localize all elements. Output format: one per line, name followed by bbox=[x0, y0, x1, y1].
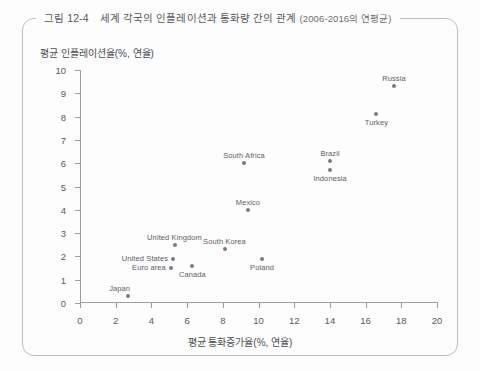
y-axis-tick: 8 bbox=[75, 117, 80, 118]
y-axis-tick: 5 bbox=[75, 187, 80, 188]
y-axis-tick-label: 0 bbox=[61, 298, 66, 309]
x-axis-tick-label: 16 bbox=[360, 315, 371, 326]
x-axis-tick-label: 12 bbox=[289, 315, 300, 326]
x-axis-tick-label: 10 bbox=[253, 315, 264, 326]
figure-caption-text: 세계 각국의 인플레이션과 통화량 간의 관계 bbox=[100, 12, 297, 24]
data-point-label: United States bbox=[122, 254, 168, 263]
x-axis-tick-label: 6 bbox=[184, 315, 189, 326]
scatter-plot-area: 01234567891002468101214161820JapanEuro a… bbox=[80, 70, 437, 303]
y-axis-tick-label: 9 bbox=[61, 88, 66, 99]
y-axis-tick-label: 10 bbox=[55, 65, 66, 76]
data-point-label: Euro area bbox=[132, 263, 166, 272]
data-point[interactable] bbox=[242, 161, 246, 165]
y-axis-tick-label: 8 bbox=[61, 111, 66, 122]
y-axis-tick: 7 bbox=[75, 140, 80, 141]
y-axis-tick: 3 bbox=[75, 233, 80, 234]
x-axis-tick: 18 bbox=[401, 303, 402, 308]
x-axis-tick-label: 0 bbox=[77, 315, 82, 326]
data-point-label: South Korea bbox=[203, 237, 246, 246]
data-point[interactable] bbox=[169, 266, 173, 270]
data-point-label: Poland bbox=[250, 263, 274, 272]
data-point[interactable] bbox=[173, 243, 177, 247]
y-axis-tick: 6 bbox=[75, 163, 80, 164]
x-axis-tick: 4 bbox=[151, 303, 152, 308]
x-axis-tick: 6 bbox=[187, 303, 188, 308]
x-axis-tick-label: 2 bbox=[113, 315, 118, 326]
x-axis-tick: 2 bbox=[116, 303, 117, 308]
y-axis-tick: 1 bbox=[75, 280, 80, 281]
y-axis-tick-label: 1 bbox=[61, 274, 66, 285]
x-axis-tick: 10 bbox=[259, 303, 260, 308]
data-point[interactable] bbox=[328, 159, 332, 163]
y-axis-tick-label: 2 bbox=[61, 251, 66, 262]
x-axis-tick-label: 18 bbox=[396, 315, 407, 326]
y-axis-tick-label: 5 bbox=[61, 181, 66, 192]
y-axis-tick-label: 6 bbox=[61, 158, 66, 169]
x-axis-tick-label: 20 bbox=[432, 315, 443, 326]
x-axis-tick: 20 bbox=[437, 303, 438, 308]
data-point[interactable] bbox=[392, 84, 396, 88]
x-axis-tick-label: 4 bbox=[149, 315, 154, 326]
data-point-label: Brazil bbox=[320, 149, 339, 158]
data-point[interactable] bbox=[190, 264, 194, 268]
x-axis-tick: 0 bbox=[80, 303, 81, 308]
x-axis-tick: 8 bbox=[223, 303, 224, 308]
x-axis-tick: 16 bbox=[366, 303, 367, 308]
data-point-label: Indonesia bbox=[313, 174, 346, 183]
x-axis-title: 평균 통화증가율(%, 연율) bbox=[0, 334, 480, 349]
data-point[interactable] bbox=[126, 294, 130, 298]
data-point[interactable] bbox=[223, 247, 227, 251]
data-point-label: Canada bbox=[179, 270, 206, 279]
data-point[interactable] bbox=[328, 168, 332, 172]
data-point-label: Russia bbox=[382, 74, 406, 83]
data-point[interactable] bbox=[171, 257, 175, 261]
x-axis-tick-label: 8 bbox=[220, 315, 225, 326]
data-point-label: Turkey bbox=[365, 118, 388, 127]
y-axis-line bbox=[80, 70, 81, 304]
data-point-label: Mexico bbox=[236, 198, 260, 207]
data-point[interactable] bbox=[246, 208, 250, 212]
data-point[interactable] bbox=[260, 257, 264, 261]
figure-page: 그림 12-4 세계 각국의 인플레이션과 통화량 간의 관계 (2006-20… bbox=[0, 0, 480, 371]
data-point[interactable] bbox=[374, 112, 378, 116]
y-axis-title: 평균 인플레이션율(%, 연율) bbox=[40, 45, 154, 60]
y-axis-tick: 4 bbox=[75, 210, 80, 211]
figure-caption-number: 그림 12-4 bbox=[44, 12, 89, 24]
data-point-label: Japan bbox=[109, 284, 130, 293]
x-axis-tick: 12 bbox=[294, 303, 295, 308]
x-axis-tick-label: 14 bbox=[325, 315, 336, 326]
y-axis-tick-label: 4 bbox=[61, 204, 66, 215]
x-axis-tick: 14 bbox=[330, 303, 331, 308]
y-axis-tick: 9 bbox=[75, 93, 80, 94]
data-point-label: United Kingdom bbox=[147, 233, 202, 242]
figure-caption: 그림 12-4 세계 각국의 인플레이션과 통화량 간의 관계 (2006-20… bbox=[36, 10, 400, 25]
y-axis-tick-label: 3 bbox=[61, 228, 66, 239]
y-axis-tick: 2 bbox=[75, 256, 80, 257]
y-axis-tick-label: 7 bbox=[61, 134, 66, 145]
data-point-label: South Africa bbox=[223, 151, 265, 160]
figure-caption-period: (2006-2016의 연평균) bbox=[300, 13, 392, 24]
y-axis-tick: 10 bbox=[75, 70, 80, 71]
